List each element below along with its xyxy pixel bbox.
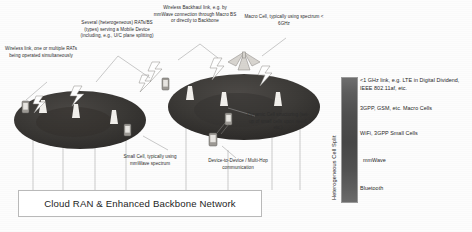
cell-split-gradient-bar [341, 77, 358, 203]
legend-entry-mmwave: mmWave [363, 157, 472, 165]
network-architecture-figure: Wireless link, one or multiple RATs bein… [0, 0, 472, 232]
annotation-dynamic-cell: Dynamic Cell structuring (set-up of smal… [247, 112, 309, 132]
legend-entry-smallcells: WiFi, 3GPP Small Cells [360, 130, 470, 138]
small-cell-coverage-ellipse [14, 91, 146, 149]
cloud-ran-label: Cloud RAN & Enhanced Backbone Network [44, 198, 235, 209]
cloud-ran-box: Cloud RAN & Enhanced Backbone Network [18, 190, 262, 217]
annotation-several-rats: Several (heterogeneous) RATs/BS (types) … [78, 20, 156, 40]
legend-entry-bluetooth: Bluetooth [360, 185, 470, 193]
macro-base-station-tower-icon [228, 52, 260, 70]
annotation-device-to-device: Device-to-Device / Multi-Hop communicati… [204, 158, 272, 171]
legend-entry-macro: 3GPP, GSM, etc. Macro Cells [360, 105, 470, 113]
legend-entry-sub1ghz: <1 GHz link, e.g. LTE in Digital Dividen… [360, 77, 470, 93]
annotation-small-cell: Small Cell, typically using mmWave spect… [118, 154, 182, 167]
annotation-wireless-backhaul: Wireless Backhaul link, e.g. by mmWave c… [153, 5, 237, 25]
legend-axis-title: Heterogeneous Cell Split [331, 135, 337, 200]
annotation-macro-cell: Macro Cell, typically using spectrum < 6… [244, 14, 324, 27]
annotation-wireless-link: Wireless link, one or multiple RATs bein… [4, 46, 78, 59]
